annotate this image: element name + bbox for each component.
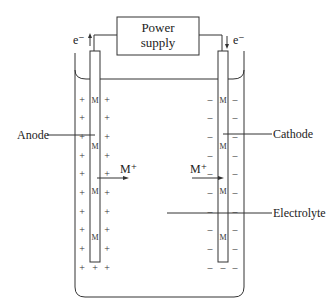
svg-text:–: – — [207, 131, 214, 142]
svg-text:M: M — [91, 96, 98, 105]
ion-arrow-left-head — [123, 176, 129, 180]
anode-label: Anode — [17, 128, 49, 142]
svg-text:–: – — [207, 262, 214, 273]
ion-label-right: M⁺ — [190, 162, 207, 176]
cathode-electrode — [218, 51, 228, 262]
svg-text:–: – — [232, 262, 239, 273]
svg-text:+: + — [79, 131, 85, 142]
svg-text:+: + — [104, 112, 110, 123]
svg-text:–: – — [232, 243, 239, 254]
svg-text:+: + — [79, 243, 85, 254]
svg-text:+: + — [92, 262, 98, 273]
svg-text:+: + — [104, 224, 110, 235]
electron-arrow-up-icon — [88, 33, 92, 38]
svg-text:M: M — [219, 142, 226, 151]
cathode-label: Cathode — [273, 127, 313, 141]
svg-text:–: – — [232, 187, 239, 198]
svg-text:–: – — [207, 206, 214, 217]
svg-text:+: + — [104, 150, 110, 161]
electron-arrow-down-icon — [225, 44, 229, 49]
svg-text:+: + — [79, 112, 85, 123]
electron-label-right: e⁻ — [233, 33, 245, 47]
svg-text:M: M — [219, 187, 226, 196]
svg-text:+: + — [79, 168, 85, 179]
svg-text:+: + — [79, 206, 85, 217]
svg-text:–: – — [207, 168, 214, 179]
svg-text:+: + — [79, 187, 85, 198]
svg-text:M: M — [219, 233, 226, 242]
svg-text:+: + — [104, 243, 110, 254]
svg-text:+: + — [104, 262, 110, 273]
svg-text:–: – — [207, 94, 214, 105]
svg-text:M: M — [91, 142, 98, 151]
ion-label-left: M⁺ — [120, 162, 137, 176]
electrolyte-label: Electrolyte — [273, 206, 326, 220]
svg-text:+: + — [104, 131, 110, 142]
anode-electrode — [90, 51, 100, 262]
svg-text:+: + — [104, 94, 110, 105]
svg-text:–: – — [207, 243, 214, 254]
svg-text:–: – — [232, 112, 239, 123]
svg-text:M: M — [91, 187, 98, 196]
svg-text:+: + — [79, 224, 85, 235]
svg-text:–: – — [207, 150, 214, 161]
svg-text:–: – — [232, 131, 239, 142]
svg-text:–: – — [207, 224, 214, 235]
svg-text:–: – — [207, 112, 214, 123]
svg-text:–: – — [220, 262, 227, 273]
svg-text:–: – — [207, 187, 214, 198]
svg-text:+: + — [104, 187, 110, 198]
svg-text:+: + — [104, 206, 110, 217]
svg-text:–: – — [232, 206, 239, 217]
svg-text:–: – — [232, 150, 239, 161]
power-supply-label-1: Power — [141, 20, 175, 35]
svg-text:M: M — [91, 233, 98, 242]
wire-left — [94, 35, 117, 51]
wire-right — [199, 35, 222, 51]
svg-text:+: + — [79, 150, 85, 161]
electron-label-left: e⁻ — [73, 33, 85, 47]
svg-text:+: + — [79, 262, 85, 273]
svg-text:–: – — [232, 168, 239, 179]
svg-text:+: + — [79, 94, 85, 105]
power-supply-label-2: supply — [141, 35, 176, 50]
svg-text:+: + — [104, 168, 110, 179]
svg-text:–: – — [232, 94, 239, 105]
svg-text:M: M — [219, 96, 226, 105]
svg-text:–: – — [232, 224, 239, 235]
electrolytic-cell-diagram: Power supply e⁻ e⁻ Anode Cathode Electro… — [0, 0, 334, 307]
